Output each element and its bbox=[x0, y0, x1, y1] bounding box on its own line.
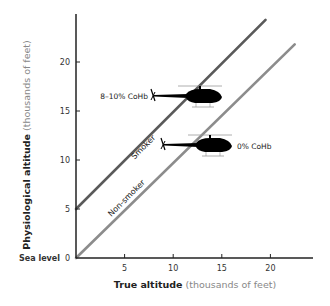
annotation-smoker-cohb: 8–10% CoHb bbox=[100, 92, 148, 101]
series-line-smoker bbox=[76, 20, 266, 209]
x-axis-title-main: True altitude bbox=[114, 279, 183, 290]
y-axis-title-units: (thousands of feet) bbox=[21, 40, 32, 134]
x-axis-title: True altitude (thousands of feet) bbox=[114, 279, 276, 290]
y-tick-label-0: 0 bbox=[65, 254, 70, 263]
helicopter-body bbox=[196, 138, 232, 152]
x-tick-label-5: 5 bbox=[122, 264, 127, 273]
x-axis-title-units: (thousands of feet) bbox=[182, 279, 276, 290]
helicopter-mast bbox=[199, 86, 201, 89]
series-label-smoker: Smoker bbox=[129, 133, 157, 161]
x-tick-label-15: 15 bbox=[217, 264, 227, 273]
annotation-non-smoker-cohb: 0% CoHb bbox=[237, 142, 272, 151]
y-tick-label-5: 5 bbox=[65, 205, 70, 214]
y-axis-title: Physiological altitude (thousands of fee… bbox=[21, 40, 32, 250]
sea-level-label: Sea level bbox=[19, 254, 60, 263]
helicopter-tail bbox=[154, 94, 188, 98]
y-tick-label-10: 10 bbox=[60, 156, 70, 165]
helicopter-icon-non-smoker bbox=[161, 135, 232, 156]
x-tick-label-20: 20 bbox=[265, 264, 275, 273]
y-tick-label-15: 15 bbox=[60, 107, 70, 116]
helicopter-tail bbox=[164, 143, 198, 147]
y-tick-label-20: 20 bbox=[60, 58, 70, 67]
x-tick-label-10: 10 bbox=[168, 264, 178, 273]
series-label-non-smoker: Non-smoker bbox=[106, 177, 147, 218]
series-line-non-smoker bbox=[76, 44, 295, 258]
helicopter-icon-smoker bbox=[151, 86, 222, 107]
helicopter-body bbox=[186, 89, 222, 103]
y-axis-title-main: Physiological altitude bbox=[21, 134, 32, 250]
helicopter-mast bbox=[209, 135, 211, 138]
altitude-chart: 510152005101520Sea levelTrue altitude (t… bbox=[0, 0, 330, 306]
